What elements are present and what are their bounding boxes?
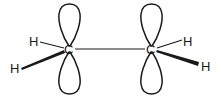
left-upper-h-bond <box>40 42 64 48</box>
left-upper-hydrogen-label: H <box>29 34 38 49</box>
left-p-orbital-top-lobe <box>59 4 80 46</box>
right-lower-hydrogen-label: H <box>201 59 210 74</box>
ethylene-p-orbital-diagram: C C H H H H <box>0 0 221 97</box>
right-upper-hydrogen-label: H <box>183 34 192 49</box>
left-lower-h-wedge-bond <box>21 50 65 70</box>
right-upper-h-bond <box>157 40 182 48</box>
left-lower-hydrogen-label: H <box>10 61 19 76</box>
right-p-orbital-bottom-lobe <box>141 52 162 94</box>
right-p-orbital-top-lobe <box>141 4 162 46</box>
left-p-orbital-bottom-lobe <box>59 52 80 94</box>
right-lower-h-wedge-bond <box>156 50 199 66</box>
right-carbon-label: C <box>146 42 155 57</box>
left-carbon-label: C <box>64 42 73 57</box>
